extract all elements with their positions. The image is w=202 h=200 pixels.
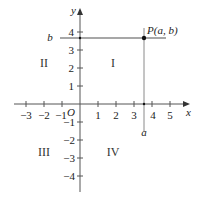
- quadrant-label-iii: III: [38, 145, 50, 159]
- quadrant-label-ii: II: [40, 56, 48, 70]
- x-tick-label: 3: [131, 109, 137, 121]
- x-tick-label: 1: [95, 109, 101, 121]
- y-tick-label: 1: [69, 80, 75, 92]
- y-axis-arrow-icon: [77, 8, 83, 15]
- a-label: a: [141, 126, 147, 138]
- y-axis-label: y: [70, 4, 76, 16]
- coordinate-plane: −3 −2 −1 1 2 3 4 5 4 3 2 1 −1 −2 −3 −4 x…: [0, 0, 202, 200]
- point-p-label: P(a, b): [146, 24, 178, 37]
- x-tick-label: −2: [38, 109, 50, 121]
- x-tick-labels: −3 −2 −1 1 2 3 4 5: [20, 109, 173, 121]
- x-tick-label: −3: [20, 109, 32, 121]
- y-tick-label: 4: [69, 26, 75, 38]
- a-marker: [143, 103, 145, 105]
- y-tick-label: −2: [63, 134, 75, 146]
- b-marker: [79, 37, 81, 39]
- quadrant-label-i: I: [111, 56, 115, 70]
- quadrant-label-iv: IV: [107, 145, 120, 159]
- y-tick-label: −4: [63, 170, 75, 182]
- origin-label: O: [67, 106, 75, 118]
- x-axis-label: x: [185, 106, 191, 118]
- y-tick-label: 2: [69, 62, 75, 74]
- x-tick-label: 2: [113, 109, 119, 121]
- y-tick-label: −3: [63, 152, 75, 164]
- y-tick-label: 3: [69, 44, 75, 56]
- x-tick-label: 4: [150, 109, 156, 121]
- b-label: b: [47, 31, 53, 43]
- x-tick-label: 5: [167, 109, 173, 121]
- point-p: [142, 36, 146, 40]
